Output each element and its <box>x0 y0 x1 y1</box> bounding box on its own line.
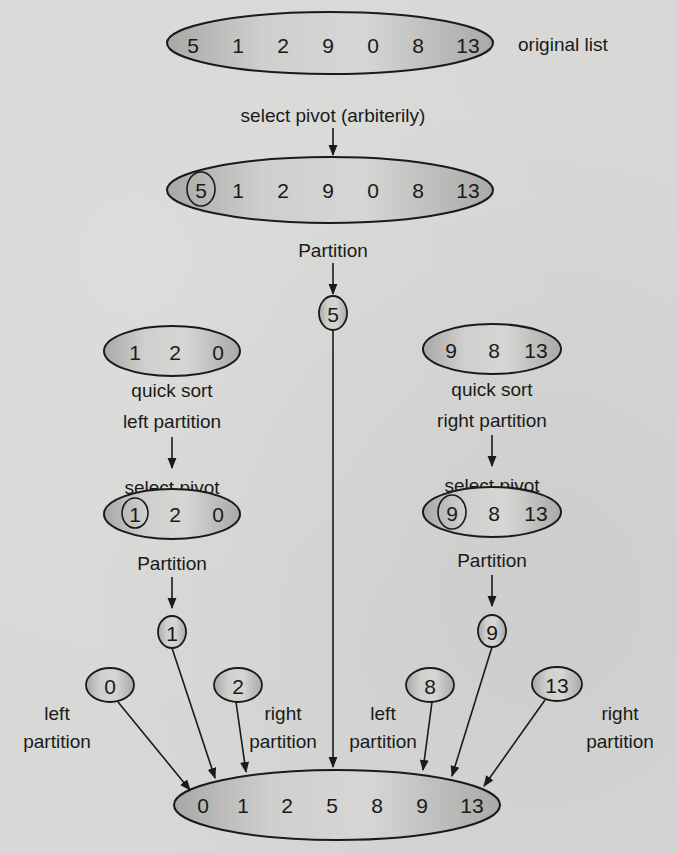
sorted-value: 8 <box>371 794 383 817</box>
right-value: 13 <box>524 339 547 362</box>
original-value: 0 <box>367 34 379 57</box>
left-label-1: left <box>44 703 70 724</box>
left-label-1: left <box>370 703 396 724</box>
arrow-icon <box>118 702 190 790</box>
leaf-node-2: 2 <box>214 668 262 702</box>
leaf-node-0: 0 <box>86 668 134 702</box>
original-value: 2 <box>277 34 289 57</box>
right-label-2: partition <box>249 731 317 752</box>
left-value: 2 <box>169 341 181 364</box>
left-pivot-value: 2 <box>169 503 181 526</box>
pivot-list-value: 2 <box>277 179 289 202</box>
right-pivot-value: 9 <box>446 502 458 525</box>
sorted-list: 0 1 2 5 8 9 13 <box>174 770 500 840</box>
select-pivot-label: select pivot (arbiterily) <box>241 105 426 126</box>
leaf-node-13: 13 <box>532 667 582 701</box>
sorted-value: 1 <box>237 794 249 817</box>
left-pivot-node: 1 <box>158 616 186 648</box>
left-pivot-value: 0 <box>212 503 224 526</box>
left-label-2: partition <box>349 731 417 752</box>
arrow-icon <box>172 648 215 778</box>
left-partition-list: 1 2 0 <box>104 326 240 376</box>
partition-label: Partition <box>298 240 368 261</box>
pivot-list-value: 5 <box>195 179 207 202</box>
left-caption-2: left partition <box>123 411 221 432</box>
arrow-icon <box>484 700 545 786</box>
leaf-value: 13 <box>545 674 568 697</box>
leaf-value: 2 <box>232 675 244 698</box>
left-partition-label: Partition <box>137 553 207 574</box>
right-caption-2: right partition <box>437 410 547 431</box>
arrow-icon <box>236 702 246 772</box>
left-pivot-node-value: 1 <box>166 622 178 645</box>
left-value: 1 <box>129 341 141 364</box>
right-partition-label: Partition <box>457 550 527 571</box>
original-value: 1 <box>232 34 244 57</box>
right-pivot-value: 13 <box>524 502 547 525</box>
pivot-list-value: 9 <box>322 179 334 202</box>
left-caption-1: quick sort <box>131 380 213 401</box>
leaf-node-8: 8 <box>406 668 454 702</box>
leaf-value: 0 <box>104 675 116 698</box>
original-list: 5 1 2 9 0 8 13 <box>167 12 493 74</box>
pivot-list-value: 1 <box>232 179 244 202</box>
arrow-icon <box>423 702 432 770</box>
pivot-list-value: 8 <box>412 179 424 202</box>
sorted-value: 5 <box>326 794 338 817</box>
right-pivot-value: 8 <box>488 502 500 525</box>
sorted-value: 13 <box>460 794 483 817</box>
sorted-value: 9 <box>416 794 428 817</box>
left-label-2: partition <box>23 731 91 752</box>
quicksort-diagram: 5 1 2 9 0 8 13 original list select pivo… <box>0 0 677 854</box>
original-value: 9 <box>322 34 334 57</box>
original-list-label: original list <box>518 34 608 55</box>
right-value: 8 <box>488 339 500 362</box>
pivot-list-value: 0 <box>367 179 379 202</box>
root-pivot-node: 5 <box>319 296 347 330</box>
pivot-selected-list: 5 1 2 9 0 8 13 <box>167 157 493 223</box>
left-value: 0 <box>212 341 224 364</box>
right-partition-list: 9 8 13 <box>423 324 561 374</box>
right-label-1: right <box>265 703 303 724</box>
right-label-1: right <box>602 703 640 724</box>
original-value: 13 <box>456 34 479 57</box>
pivot-list-value: 13 <box>456 179 479 202</box>
right-label-2: partition <box>586 731 654 752</box>
arrow-icon <box>452 647 492 776</box>
root-pivot-value: 5 <box>327 303 339 326</box>
original-value: 5 <box>187 34 199 57</box>
left-pivot-value: 1 <box>129 503 141 526</box>
leaf-value: 8 <box>424 675 436 698</box>
right-pivot-list: 9 8 13 <box>423 487 561 537</box>
right-value: 9 <box>445 339 457 362</box>
left-pivot-list: 1 2 0 <box>104 489 240 539</box>
sorted-value: 0 <box>197 794 209 817</box>
right-pivot-node-value: 9 <box>486 621 498 644</box>
right-caption-1: quick sort <box>451 379 533 400</box>
original-value: 8 <box>412 34 424 57</box>
sorted-value: 2 <box>281 794 293 817</box>
right-pivot-node: 9 <box>478 615 506 647</box>
